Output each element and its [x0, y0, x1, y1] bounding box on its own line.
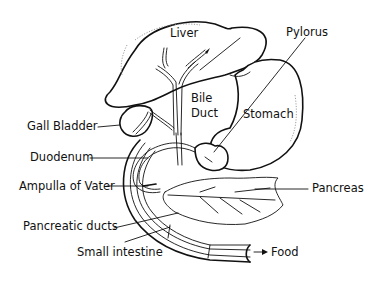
label-pylorus: Pylorus [286, 26, 328, 39]
pancreas-shape [163, 177, 283, 224]
label-gall-bladder: Gall Bladder [27, 120, 98, 133]
label-ampulla-of-vater: Ampulla of Vater [19, 180, 115, 193]
gall-bladder-shape [120, 106, 153, 137]
pylorus-shape [195, 143, 228, 170]
label-stomach: Stomach [243, 108, 294, 121]
label-liver: Liver [170, 27, 198, 40]
digestive-system-diagram: Liver Pylorus Bile Duct Stomach Gall Bla… [0, 0, 381, 283]
label-pancreatic-ducts: Pancreatic ducts [23, 220, 118, 233]
label-food: Food [271, 246, 299, 259]
label-pancreas: Pancreas [312, 182, 364, 195]
label-small-intestine: Small intestine [77, 246, 163, 259]
label-bile-duct-1: Bile [191, 92, 212, 105]
label-duodenum: Duodenum [30, 151, 93, 164]
anatomy-drawing [0, 0, 381, 283]
label-bile-duct-2: Duct [191, 107, 218, 120]
